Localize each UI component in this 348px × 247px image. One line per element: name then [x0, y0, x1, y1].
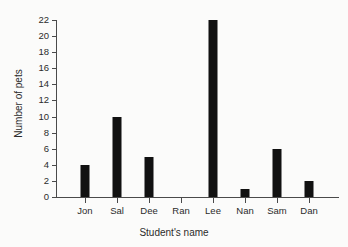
bar	[305, 181, 314, 197]
y-tick-label: 8	[44, 128, 49, 138]
y-tick-label: 14	[38, 80, 49, 90]
x-tick-mark	[149, 198, 150, 203]
y-tick-label: 22	[38, 15, 49, 25]
y-tick-label: 6	[44, 144, 49, 154]
y-axis-title: Number of pets	[13, 44, 24, 164]
x-tick-mark	[309, 198, 310, 203]
y-tick-label: 0	[44, 192, 49, 202]
y-tick-label: 10	[38, 112, 49, 122]
y-tick-label: 4	[44, 160, 49, 170]
x-tick-label: Ran	[172, 206, 189, 216]
y-tick-label: 18	[38, 47, 49, 57]
x-tick-label: Sal	[110, 206, 124, 216]
bar	[273, 149, 282, 197]
bar	[145, 157, 154, 197]
bar	[81, 165, 90, 197]
bar-chart-figure: 0246810121416182022 JonSalDeeRanLeeNanSa…	[0, 0, 348, 247]
y-tick-label: 20	[38, 31, 49, 41]
x-tick-mark	[85, 198, 86, 203]
x-tick-mark	[117, 198, 118, 203]
x-tick-label: Nan	[236, 206, 253, 216]
bar	[209, 20, 218, 197]
x-tick-label: Lee	[205, 206, 221, 216]
x-tick-mark	[277, 198, 278, 203]
bar	[113, 117, 122, 197]
y-tick-label: 2	[44, 176, 49, 186]
x-tick-mark	[181, 198, 182, 203]
y-axis-ticks: 0246810121416182022	[0, 0, 57, 247]
x-tick-mark	[213, 198, 214, 203]
x-tick-mark	[245, 198, 246, 203]
x-axis-line	[56, 197, 339, 198]
y-tick-mark	[52, 197, 57, 198]
x-tick-label: Sam	[267, 206, 287, 216]
x-tick-label: Jon	[77, 206, 92, 216]
x-tick-label: Dan	[300, 206, 317, 216]
y-tick-label: 12	[38, 96, 49, 106]
x-axis-title: Student's name	[0, 227, 348, 238]
y-tick-label: 16	[38, 64, 49, 74]
x-tick-label: Dee	[140, 206, 157, 216]
plot-area	[57, 20, 339, 197]
bar	[241, 189, 250, 197]
